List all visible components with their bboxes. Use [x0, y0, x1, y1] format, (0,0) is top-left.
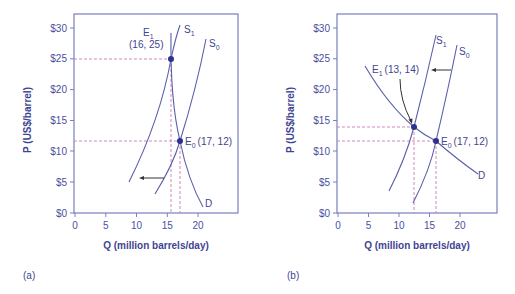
y-tick-label: $25	[50, 53, 67, 64]
panel-label-a: (a)	[23, 270, 35, 281]
shift-arrow	[139, 176, 164, 180]
panel-a: $0 $5 $10 $15 $20 $25 $30 P (US$/barrel)…	[22, 14, 238, 281]
y-tick-label: $30	[313, 23, 330, 34]
equilibrium-point-e0	[177, 138, 183, 144]
x-tick-label: 10	[131, 220, 143, 231]
supply-curve-s0	[155, 39, 206, 194]
shift-arrow	[431, 68, 451, 72]
equilibrium-point-e0	[433, 138, 439, 144]
e1-label: E1(13, 14)	[372, 64, 419, 77]
y-tick-label: $20	[50, 84, 67, 95]
x-tick-label: 5	[366, 220, 372, 231]
x-tick-label: 0	[335, 220, 341, 231]
equilibrium-point-e1	[411, 124, 417, 130]
supply-demand-figure: $0 $5 $10 $15 $20 $25 $30 P (US$/barrel)…	[0, 0, 515, 294]
panel-b: $0 $5 $10 $15 $20 $25 $30 P (US$/barrel)…	[285, 14, 497, 281]
x-tick-label: 20	[454, 220, 466, 231]
x-axis: 0 5 10 15 20 Q (million barrels/day)	[72, 213, 209, 251]
x-tick-label: 15	[162, 220, 174, 231]
e1-callout-arrow	[400, 79, 413, 124]
y-axis-title: P (US$/barrel)	[285, 87, 296, 153]
x-axis-title: Q (million barrels/day)	[103, 240, 209, 251]
y-tick-label: $0	[319, 208, 331, 219]
e0-label: E0(17, 12)	[185, 136, 232, 149]
y-axis-title: P (US$/barrel)	[22, 87, 33, 153]
d-label: D	[478, 170, 485, 181]
x-tick-label: 15	[424, 220, 436, 231]
y-tick-label: $30	[50, 23, 67, 34]
demand-curve-d	[365, 66, 478, 174]
panel-label-b: (b)	[287, 270, 299, 281]
figure: $0 $5 $10 $15 $20 $25 $30 P (US$/barrel)…	[0, 0, 515, 294]
y-tick-label: $10	[50, 146, 67, 157]
demand-curve-d	[171, 33, 203, 207]
e0-label: E0(17, 12)	[441, 136, 488, 149]
x-tick-label: 10	[393, 220, 405, 231]
x-axis: 0 5 10 15 20 Q (million barrels/day)	[335, 213, 470, 251]
y-tick-label: $20	[313, 84, 330, 95]
y-axis: $0 $5 $10 $15 $20 $25 $30 P (US$/barrel)	[285, 23, 337, 219]
y-tick-label: $5	[56, 177, 68, 188]
s0-label: S0	[459, 46, 470, 59]
y-tick-label: $5	[319, 177, 331, 188]
e1-coords: (16, 25)	[129, 39, 163, 50]
y-tick-label: $0	[56, 208, 68, 219]
guide-lines	[337, 127, 436, 213]
equilibrium-point-e1	[168, 56, 174, 62]
y-tick-label: $25	[313, 53, 330, 64]
s1-label: S1	[184, 24, 195, 37]
y-tick-label: $10	[313, 146, 330, 157]
s0-label: S0	[209, 38, 220, 51]
d-label: D	[205, 198, 212, 209]
x-tick-label: 0	[72, 220, 78, 231]
x-tick-label: 5	[103, 220, 109, 231]
s1-label: S1	[436, 35, 447, 48]
guide-lines	[74, 59, 180, 213]
y-tick-label: $15	[50, 115, 67, 126]
x-axis-title: Q (million barrels/day)	[364, 240, 470, 251]
y-tick-label: $15	[313, 115, 330, 126]
x-tick-label: 20	[192, 220, 204, 231]
y-axis: $0 $5 $10 $15 $20 $25 $30 P (US$/barrel)	[22, 23, 74, 219]
